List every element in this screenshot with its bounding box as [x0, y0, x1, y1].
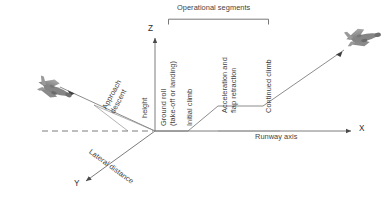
ground-roll-label: Ground roll (take-off or landing) [160, 61, 177, 126]
aircraft-departing-icon [344, 25, 383, 50]
acceleration-line2: flap retraction [230, 57, 239, 113]
initial-climb-label: Initial climb [186, 89, 195, 126]
diagram-canvas [0, 0, 390, 210]
runway-axis-caption: Runway axis [255, 133, 297, 142]
operational-segments-label: Operational segments [177, 4, 250, 13]
acceleration-flap-retraction-label: Acceleration and flap retraction [221, 57, 238, 113]
takeoff-profile-path [155, 50, 344, 131]
height-label: height [141, 98, 150, 118]
flight-profile-diagram: Operational segments Z X Y Runway axis L… [0, 0, 390, 210]
aircraft-approaching-icon [35, 75, 75, 105]
continued-climb-label: Continued climb [265, 59, 274, 113]
y-axis-label: Y [74, 180, 80, 189]
ground-roll-line2: (take-off or landing) [169, 61, 178, 126]
x-axis-label: X [359, 125, 365, 134]
operational-segments-bracket [169, 19, 269, 24]
z-axis-label: Z [148, 25, 153, 34]
